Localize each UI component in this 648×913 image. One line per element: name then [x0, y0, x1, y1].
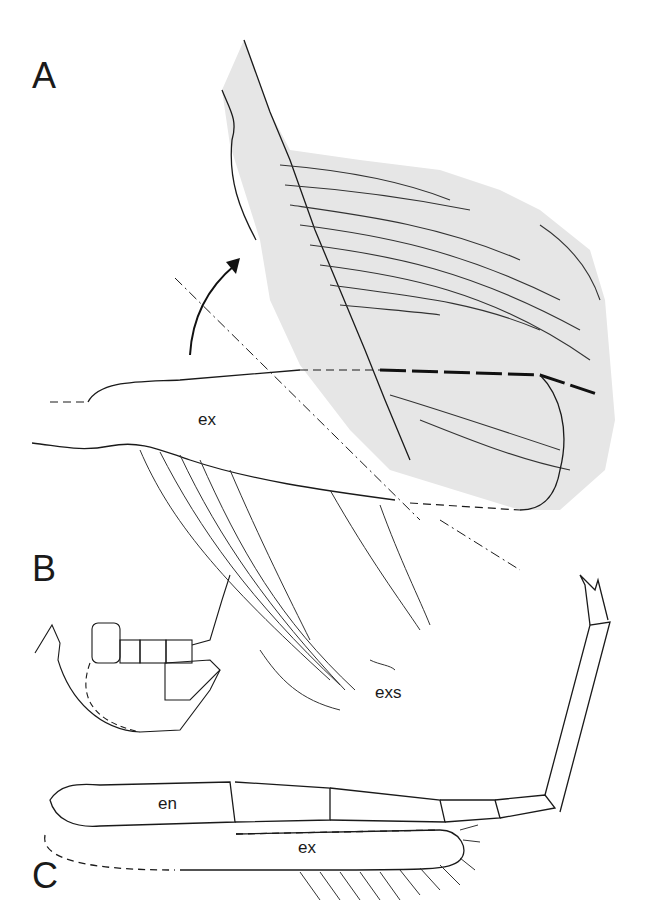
panel-label-a: A	[32, 55, 56, 97]
figure-drawing	[0, 0, 648, 913]
panel-label-b: B	[32, 548, 56, 590]
label-ex-a: ex	[198, 410, 216, 430]
shaded-flap	[222, 40, 615, 510]
label-exs: exs	[375, 683, 401, 703]
panel-label-c: C	[32, 855, 58, 897]
label-ex-c: ex	[298, 838, 316, 858]
label-en: en	[158, 794, 177, 814]
